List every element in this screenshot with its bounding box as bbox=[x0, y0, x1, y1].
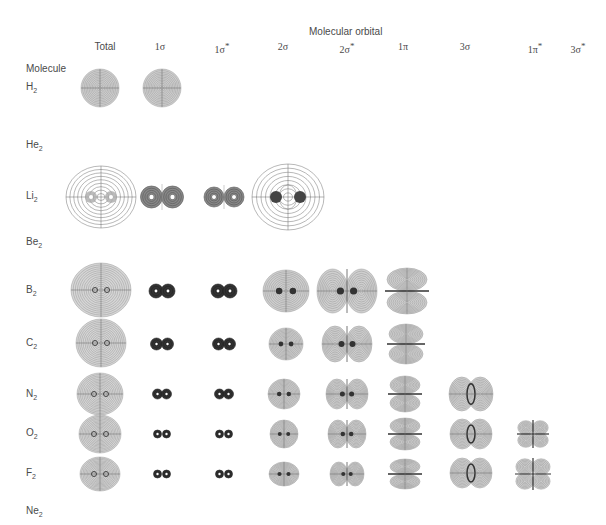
orbital-li2-1s bbox=[141, 184, 184, 210]
orbital-h2-1s bbox=[143, 69, 181, 107]
orbital-n2-1p bbox=[388, 376, 422, 412]
orbital-b2-total bbox=[71, 263, 131, 317]
orbital-b2-1s bbox=[149, 284, 175, 298]
orbital-c2-2s bbox=[269, 328, 303, 360]
orbital-n2-total bbox=[77, 373, 123, 415]
orbital-o2-1p bbox=[388, 418, 422, 450]
orbital-li2-total bbox=[66, 166, 136, 228]
orbital-o2-1s bbox=[154, 430, 171, 438]
orbital-contour-grid bbox=[0, 0, 606, 525]
orbital-o2-2ss bbox=[328, 420, 366, 448]
orbital-f2-1ps bbox=[515, 458, 551, 490]
orbital-o2-1ps bbox=[517, 420, 549, 448]
orbital-li2-2s bbox=[252, 164, 324, 230]
orbital-o2-1ss bbox=[216, 430, 233, 438]
orbital-o2-total bbox=[79, 415, 121, 453]
orbital-c2-1p bbox=[387, 324, 425, 364]
orbital-c2-2ss bbox=[322, 326, 372, 362]
orbital-h2-total bbox=[81, 69, 119, 107]
orbital-c2-1ss bbox=[213, 338, 236, 350]
orbital-f2-1p bbox=[388, 459, 422, 489]
orbital-n2-2ss bbox=[326, 379, 368, 409]
orbital-b2-1p bbox=[385, 268, 429, 314]
orbital-f2-2s bbox=[269, 462, 299, 486]
orbital-b2-2ss bbox=[317, 269, 377, 313]
orbital-c2-1s bbox=[151, 338, 174, 350]
orbital-n2-1s bbox=[153, 389, 172, 399]
orbital-n2-2s bbox=[268, 379, 300, 409]
orbital-c2-total bbox=[76, 319, 126, 367]
orbital-f2-1ss bbox=[216, 470, 233, 478]
orbital-b2-2s bbox=[263, 270, 309, 312]
orbital-f2-2ss bbox=[330, 462, 364, 486]
orbital-n2-3s bbox=[449, 377, 493, 411]
orbital-f2-1s bbox=[154, 470, 171, 478]
orbital-f2-3s bbox=[450, 458, 492, 488]
orbital-o2-3s bbox=[450, 419, 492, 449]
orbital-li2-1ss bbox=[204, 185, 244, 209]
orbital-o2-2s bbox=[270, 420, 298, 448]
orbital-n2-1ss bbox=[215, 389, 234, 399]
orbital-f2-total bbox=[80, 457, 120, 491]
orbital-b2-1ss bbox=[211, 284, 237, 298]
